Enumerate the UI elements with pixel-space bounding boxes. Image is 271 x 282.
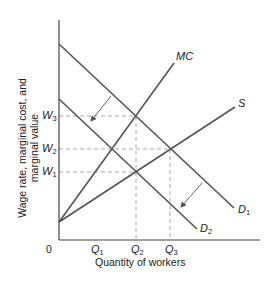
mc-label: MC bbox=[176, 50, 193, 62]
curves bbox=[59, 44, 235, 229]
d2-letter: D bbox=[200, 222, 208, 234]
q1-sub: 1 bbox=[100, 248, 104, 257]
demand-curve-d1 bbox=[59, 44, 234, 208]
q1-letter: Q bbox=[91, 243, 100, 255]
s-label: S bbox=[238, 97, 245, 109]
q3-tick: Q3 bbox=[165, 243, 178, 257]
arrow-icon bbox=[181, 183, 202, 207]
d2-label: D2 bbox=[200, 222, 212, 236]
w3-tick: W3 bbox=[42, 109, 57, 123]
d1-label: D1 bbox=[238, 203, 250, 217]
origin-label: 0 bbox=[46, 243, 52, 255]
d1-letter: D bbox=[238, 203, 246, 215]
arrow-icon bbox=[91, 96, 111, 121]
q3-letter: Q bbox=[165, 243, 174, 255]
w3-sub: 3 bbox=[52, 114, 56, 123]
x-axis-label: Quantity of workers bbox=[95, 256, 185, 268]
w2-sub: 2 bbox=[52, 147, 56, 156]
w1-letter: W bbox=[42, 165, 52, 177]
chart-canvas bbox=[0, 0, 271, 282]
w1-tick: W1 bbox=[42, 165, 57, 179]
y-axis-label: Wage rate, marginal cost, and marginal v… bbox=[16, 73, 40, 223]
w3-letter: W bbox=[42, 109, 52, 121]
q2-sub: 2 bbox=[140, 248, 144, 257]
demand-curve-d2 bbox=[59, 99, 197, 229]
q2-letter: Q bbox=[131, 243, 140, 255]
w2-tick: W2 bbox=[42, 142, 57, 156]
axes bbox=[59, 20, 260, 240]
w1-sub: 1 bbox=[52, 170, 56, 179]
guide-lines bbox=[59, 116, 170, 240]
q2-tick: Q2 bbox=[131, 243, 144, 257]
d2-sub: 2 bbox=[208, 227, 212, 236]
mc-curve bbox=[59, 63, 174, 222]
labor-market-chart: Wage rate, marginal cost, and marginal v… bbox=[0, 0, 271, 282]
d1-sub: 1 bbox=[246, 208, 250, 217]
q3-sub: 3 bbox=[174, 248, 178, 257]
w2-letter: W bbox=[42, 142, 52, 154]
q1-tick: Q1 bbox=[91, 243, 104, 257]
